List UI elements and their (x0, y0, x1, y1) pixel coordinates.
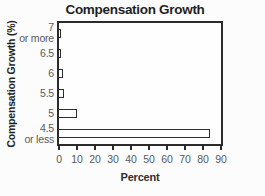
x-tick-label: 0 (56, 153, 62, 165)
y-tick-label: 4.5or less (0, 123, 54, 145)
x-tick-mark (58, 146, 60, 150)
x-axis: 0102030405060708090 (57, 146, 223, 170)
chart-title: Compensation Growth (30, 2, 240, 17)
x-tick-mark (94, 146, 96, 150)
bar-5 (59, 109, 77, 118)
y-axis-tick-labels: 7or more6.565.554.5or less (0, 21, 54, 146)
x-tick-label: 90 (215, 153, 226, 165)
x-tick-label: 10 (71, 153, 82, 165)
x-tick-label: 30 (107, 153, 118, 165)
x-tick-label: 50 (143, 153, 154, 165)
bar-5.5 (59, 89, 64, 98)
x-tick-label: 60 (161, 153, 172, 165)
y-tick-label: 5 (0, 108, 54, 119)
bar-7-or-more (59, 29, 61, 38)
bar-6 (59, 69, 63, 78)
x-tick-mark (76, 146, 78, 150)
x-tick-mark (202, 146, 204, 150)
x-tick-mark (112, 146, 114, 150)
y-tick-label: 5.5 (0, 88, 54, 99)
x-axis-title: Percent (57, 171, 223, 183)
x-tick-mark (148, 146, 150, 150)
x-tick-label: 40 (125, 153, 136, 165)
x-tick-mark (220, 146, 222, 150)
x-tick-label: 70 (179, 153, 190, 165)
y-tick-label: 6 (0, 68, 54, 79)
x-tick-mark (130, 146, 132, 150)
y-tick-label: 6.5 (0, 48, 54, 59)
compensation-growth-chart: Compensation Growth Compensation Growth … (0, 0, 265, 196)
x-tick-label: 20 (89, 153, 100, 165)
y-tick-label: 7or more (0, 22, 54, 44)
bar-6.5 (59, 49, 61, 58)
x-tick-mark (184, 146, 186, 150)
plot-area (57, 21, 223, 146)
x-tick-label: 80 (197, 153, 208, 165)
x-tick-mark (166, 146, 168, 150)
bar-4.5-or-less (59, 129, 210, 138)
